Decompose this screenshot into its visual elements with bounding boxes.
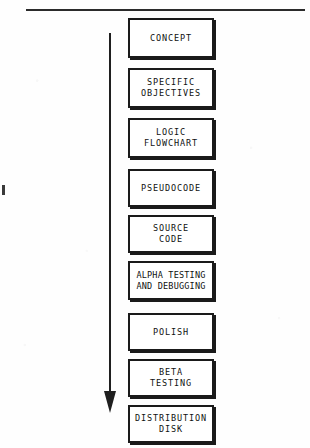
process-box-label: DISTRIBUTION DISK <box>133 413 209 435</box>
process-box-label: ALPHA TESTING AND DEBUGGING <box>135 270 206 292</box>
process-box-polish[interactable]: POLISH <box>128 313 214 351</box>
process-box-flowchart[interactable]: LOGIC FLOWCHART <box>128 118 214 158</box>
process-box-label: BETA TESTING <box>148 367 194 389</box>
process-box-alpha-test[interactable]: ALPHA TESTING AND DEBUGGING <box>128 261 214 300</box>
process-box-objectives[interactable]: SPECIFIC OBJECTIVES <box>128 68 214 108</box>
process-box-pseudocode[interactable]: PSEUDOCODE <box>128 169 214 207</box>
process-box-beta-test[interactable]: BETA TESTING <box>128 359 214 397</box>
process-box-label: LOGIC FLOWCHART <box>142 127 200 149</box>
process-box-label: SPECIFIC OBJECTIVES <box>139 77 203 99</box>
process-box-label: POLISH <box>151 327 191 338</box>
process-box-label: CONCEPT <box>148 33 194 44</box>
flowchart-page: CONCEPTSPECIFIC OBJECTIVESLOGIC FLOWCHAR… <box>0 0 310 448</box>
process-box-column: CONCEPTSPECIFIC OBJECTIVESLOGIC FLOWCHAR… <box>128 0 218 448</box>
arrow-head-icon <box>104 391 116 413</box>
process-box-distribution[interactable]: DISTRIBUTION DISK <box>128 405 214 443</box>
downward-flow-arrow <box>100 33 122 415</box>
process-box-label: SOURCE CODE <box>151 223 191 245</box>
process-box-label: PSEUDOCODE <box>139 183 203 194</box>
process-box-source-code[interactable]: SOURCE CODE <box>128 215 214 253</box>
margin-registration-tick <box>2 185 5 195</box>
process-box-concept[interactable]: CONCEPT <box>128 18 214 58</box>
arrow-shaft <box>109 33 111 396</box>
